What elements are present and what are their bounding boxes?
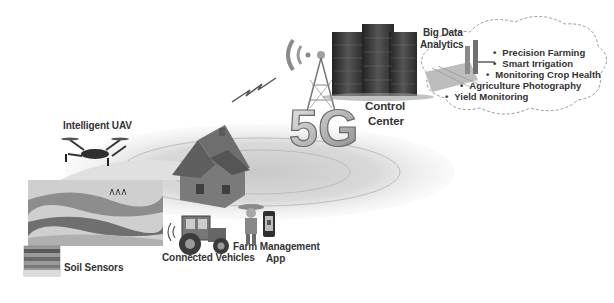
server-rack-icon: [322, 24, 434, 101]
big-data-label-line2: Analytics: [420, 39, 464, 50]
soil-sensors-label: Soil Sensors: [64, 262, 123, 273]
connected-vehicles-label: Connected Vehicles: [162, 252, 255, 263]
big-data-label-line1: Big Data: [423, 27, 463, 38]
control-center-label-line2: Center: [368, 115, 404, 127]
tractor-icon: [168, 216, 229, 255]
diagram-artwork: 5G: [0, 0, 614, 303]
service-item: Smart Irrigation: [493, 58, 573, 69]
smartphone-icon: [263, 211, 275, 237]
farm-app-label-line2: App: [266, 253, 285, 264]
soil-sensor-icon: [24, 246, 60, 276]
service-item: Monitoring Crop Health: [486, 69, 601, 80]
service-item: Precision Farming: [493, 47, 585, 58]
svg-text:5G: 5G: [289, 99, 358, 157]
service-item: Yield Monitoring: [445, 91, 528, 102]
farm-app-label-line1: Farm Management: [233, 241, 320, 252]
service-item: Agriculture Photography: [460, 80, 581, 91]
wireless-link-icon: [232, 78, 276, 102]
uav-label: Intelligent UAV: [63, 120, 132, 131]
5g-logo-icon: 5G: [289, 99, 358, 157]
control-center-label-line1: Control: [365, 100, 405, 112]
